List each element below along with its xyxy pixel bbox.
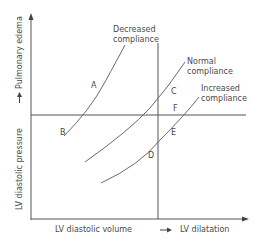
normal-compliance-label-1: Normal	[187, 57, 216, 66]
point-e-label: E	[171, 128, 176, 137]
pulmonary-edema-label: Pulmonary edema	[15, 16, 24, 89]
decreased-compliance-label-1: Decreased	[113, 25, 156, 34]
increased-compliance-label-1: Increased	[201, 84, 240, 93]
increased-compliance-label-2: compliance	[201, 94, 247, 103]
compliance-diagram: Decreased compliance Normal compliance I…	[0, 0, 255, 243]
increased-compliance-curve	[101, 97, 199, 183]
y-axis-label: LV diastolic pressure	[15, 128, 24, 210]
point-f-label: F	[173, 104, 178, 113]
normal-compliance-label-2: compliance	[187, 67, 233, 76]
lv-dilatation-arrow-icon	[167, 228, 172, 233]
point-a-label: A	[91, 81, 97, 90]
pulmonary-edema-arrow-icon	[17, 92, 22, 97]
point-b-label: B	[60, 128, 66, 137]
normal-compliance-curve	[85, 62, 185, 162]
point-d-label: D	[148, 151, 154, 160]
y-axis-arrow-icon	[29, 13, 34, 20]
decreased-compliance-curve	[64, 45, 125, 136]
point-c-label: C	[171, 87, 177, 96]
lv-dilatation-label: LV dilatation	[180, 225, 229, 234]
x-axis-arrow-icon	[242, 217, 249, 222]
decreased-compliance-label-2: compliance	[113, 35, 159, 44]
x-axis-label: LV diastolic volume	[55, 225, 132, 234]
